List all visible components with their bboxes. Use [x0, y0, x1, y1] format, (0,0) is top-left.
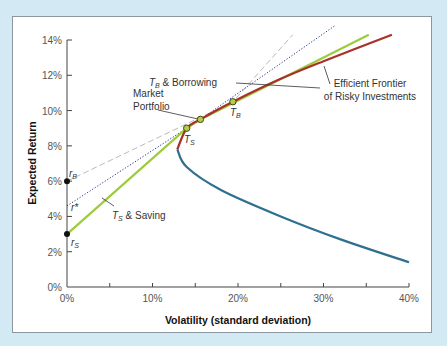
rb-label: rB: [69, 168, 77, 180]
y-tick-label: 14%: [42, 35, 62, 46]
tb-point-label: TB: [230, 107, 241, 119]
x-tick-label: 40%: [399, 293, 419, 304]
tb-borrowing-leader: [236, 83, 320, 88]
y-tick-label: 4%: [48, 211, 63, 222]
ts-point-label: TS: [184, 134, 195, 146]
portfolio-marker: [230, 99, 236, 105]
y-tick-label: 6%: [48, 176, 63, 187]
y-axis-title: Expected Return: [26, 121, 38, 204]
frontier-label-line2: of Risky Investments: [324, 91, 416, 102]
ts-saving-label: TS & Saving: [112, 210, 166, 222]
x-tick-label: 20%: [228, 293, 248, 304]
lower-frontier-line: [177, 149, 409, 262]
intercept-dot: [64, 178, 70, 184]
market-label-line1: Market: [133, 88, 164, 99]
frontier-leader: [324, 66, 330, 84]
y-tick-label: 10%: [42, 106, 62, 117]
chart: 0%2%4%6%8%10%12%14% 0%10%20%30%40% Volat…: [0, 0, 447, 346]
intercept-dot: [64, 231, 70, 237]
ts-saving-line: [67, 35, 369, 234]
y-tick-label: 12%: [42, 70, 62, 81]
y-tick-label: 2%: [48, 247, 63, 258]
frontier-label-line1: Efficient Frontier: [334, 78, 407, 89]
x-ticks: 0%10%20%30%40%: [60, 283, 419, 304]
x-tick-label: 0%: [60, 293, 75, 304]
x-axis-title: Volatility (standard deviation): [165, 314, 311, 326]
portfolio-marker: [184, 125, 190, 131]
y-tick-label: 8%: [48, 141, 63, 152]
series-lines: [67, 26, 409, 262]
rs-label: rS: [71, 237, 79, 249]
x-tick-label: 10%: [142, 293, 162, 304]
portfolio-marker: [197, 116, 203, 122]
x-tick-label: 30%: [313, 293, 333, 304]
market-label-line2: Portfolio: [133, 101, 170, 112]
rstar-label: r*: [71, 202, 79, 213]
y-tick-label: 0%: [48, 282, 63, 293]
